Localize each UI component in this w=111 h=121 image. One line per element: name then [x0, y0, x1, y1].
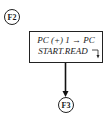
connector-f3: F3 [58, 97, 74, 113]
flow-arrow-down-icon [63, 63, 69, 97]
hook-arrow-icon [92, 50, 100, 59]
connector-f3-label: F3 [62, 101, 71, 110]
connector-lines [0, 0, 111, 121]
